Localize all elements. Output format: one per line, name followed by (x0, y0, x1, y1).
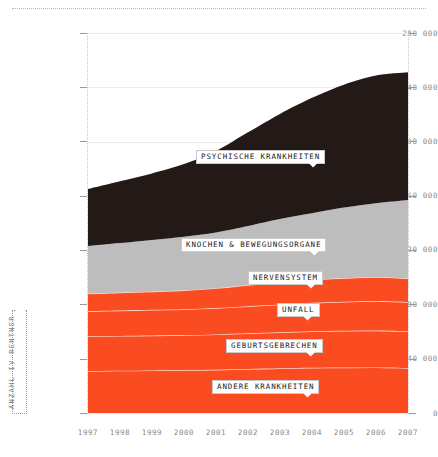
y-tick-mark-right-120000 (409, 250, 416, 251)
callout-psychische-krankheiten[interactable]: PSYCHISCHE KRANKHEITEN (196, 150, 325, 164)
y-tick-mark-right-0 (409, 413, 416, 414)
stacked-area-series (88, 33, 408, 413)
callout-unfall-label: UNFALL (282, 305, 315, 314)
y-tick-mark-160000 (80, 196, 87, 197)
y-axis-title-pointer (15, 305, 26, 311)
callout-andere-krankheiten[interactable]: ANDERE KRANKHEITEN (212, 380, 319, 394)
x-tick-label-2000: 2000 (167, 428, 201, 437)
y-tick-mark-200000 (80, 141, 87, 142)
x-tick-label-2005: 2005 (327, 428, 361, 437)
x-tick-label-1998: 1998 (103, 428, 137, 437)
callout-knochen-bewegungsorgane[interactable]: KNOCHEN & BEWEGUNGSORGANE (181, 238, 326, 252)
x-tick-label-2004: 2004 (295, 428, 329, 437)
callout-geburtsgebrechen[interactable]: GEBURTSGEBRECHEN (226, 339, 323, 353)
y-tick-mark-right-80000 (409, 304, 416, 305)
x-tick-label-2002: 2002 (231, 428, 265, 437)
y-tick-mark-right-160000 (409, 196, 416, 197)
x-tick-label-1997: 1997 (71, 428, 105, 437)
y-axis-title-label: ANZAHL IV-RENTNER (8, 315, 16, 409)
callout-unfall[interactable]: UNFALL (277, 303, 320, 317)
plot-area (88, 33, 408, 413)
y-tick-mark-right-200000 (409, 141, 416, 142)
y-tick-mark-80000 (80, 304, 87, 305)
callout-nervensystem-label: NERVENSYSTEM (253, 273, 318, 282)
callout-knochen-bewegungsorgane-label: KNOCHEN & BEWEGUNGSORGANE (186, 240, 321, 249)
callout-psychische-krankheiten-label: PSYCHISCHE KRANKHEITEN (201, 152, 320, 161)
y-axis-title-box: ANZAHL IV-RENTNER (12, 310, 27, 414)
y-tick-mark-right-40000 (409, 359, 416, 360)
y-tick-mark-right-280000 (409, 33, 416, 34)
callout-geburtsgebrechen-label: GEBURTSGEBRECHEN (231, 341, 318, 350)
y-tick-mark-120000 (80, 250, 87, 251)
callout-nervensystem[interactable]: NERVENSYSTEM (248, 271, 323, 285)
y-tick-mark-280000 (80, 33, 87, 34)
gridline-0 (88, 413, 408, 414)
x-tick-label-2001: 2001 (199, 428, 233, 437)
stacked-area-chart: 280 000 240 000 200 000 160 000 120 000 … (0, 0, 438, 457)
y-tick-mark-240000 (80, 87, 87, 88)
y-tick-mark-right-240000 (409, 87, 416, 88)
y-tick-mark-0 (80, 413, 87, 414)
x-tick-label-2003: 2003 (263, 428, 297, 437)
y-tick-mark-40000 (80, 359, 87, 360)
x-tick-label-2007: 2007 (391, 428, 425, 437)
y-axis-right-line (408, 33, 409, 414)
x-tick-label-1999: 1999 (135, 428, 169, 437)
callout-andere-krankheiten-label: ANDERE KRANKHEITEN (217, 382, 314, 391)
x-tick-label-2006: 2006 (359, 428, 393, 437)
top-dotted-rule (12, 8, 426, 9)
